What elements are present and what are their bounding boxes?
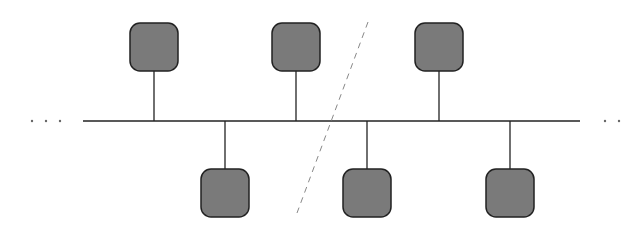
node-bottom-2 [343,169,391,217]
bottom-nodes [201,169,534,217]
node-top-2 [272,23,320,71]
bus-topology-diagram [0,0,630,227]
top-drop-lines [154,71,439,121]
node-bottom-3 [486,169,534,217]
left-ellipsis [31,120,61,122]
node-top-3 [415,23,463,71]
node-bottom-1 [201,169,249,217]
top-nodes [130,23,463,71]
bottom-drop-lines [225,121,510,169]
right-ellipsis [604,120,620,122]
node-top-1 [130,23,178,71]
